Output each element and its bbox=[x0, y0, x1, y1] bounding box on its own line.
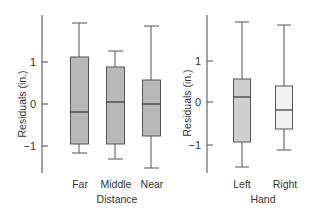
x-axis-title-left: Distance bbox=[97, 193, 138, 205]
category-right: Right bbox=[273, 178, 298, 190]
box-near bbox=[143, 26, 161, 168]
boxplot-figure: 1 0 −1 Residuals (in.) bbox=[0, 0, 320, 214]
tick-label-neg1-right: −1 bbox=[188, 139, 201, 151]
category-left: Left bbox=[233, 178, 251, 190]
y-axis-title-right: Residuals (in.) bbox=[181, 69, 193, 136]
category-middle: Middle bbox=[101, 178, 132, 190]
tick-label-1: 1 bbox=[30, 56, 36, 68]
tick-label-0: 0 bbox=[30, 98, 36, 110]
tick-label-neg1: −1 bbox=[23, 140, 36, 152]
x-axis-title-right: Hand bbox=[250, 193, 275, 205]
tick-label-1-right: 1 bbox=[195, 55, 201, 67]
y-axis-title-left: Residuals (in.) bbox=[16, 70, 28, 137]
distance-panel: 1 0 −1 Residuals (in.) bbox=[16, 15, 164, 205]
box-far bbox=[71, 23, 89, 153]
box-right-hand bbox=[276, 25, 293, 150]
category-near: Near bbox=[141, 178, 164, 190]
box-middle bbox=[107, 51, 125, 159]
box-left-hand bbox=[234, 22, 251, 167]
category-far: Far bbox=[72, 178, 88, 190]
tick-label-0-right: 0 bbox=[195, 96, 201, 108]
hand-panel: 1 0 −1 Residuals (in.) Left Right Hand bbox=[181, 15, 297, 205]
